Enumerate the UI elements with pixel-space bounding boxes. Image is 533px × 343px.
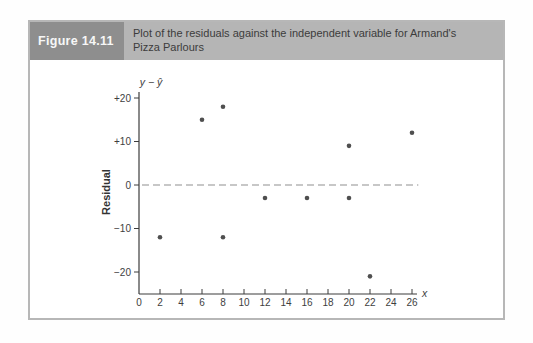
scatter-point (263, 196, 268, 201)
figure-box: Figure 14.11 Plot of the residuals again… (28, 20, 505, 320)
x-tick-label: 26 (406, 297, 418, 308)
x-tick-label: 18 (322, 297, 334, 308)
y-tick-label: +20 (114, 93, 131, 104)
page: Figure 14.11 Plot of the residuals again… (0, 0, 533, 343)
x-tick-label: 8 (220, 297, 226, 308)
figure-header: Figure 14.11 Plot of the residuals again… (30, 22, 503, 60)
x-tick-label: 6 (199, 297, 205, 308)
x-tick-label: 22 (364, 297, 376, 308)
scatter-point (347, 196, 352, 201)
y-tick-label: +10 (114, 136, 131, 147)
plot-area: +20+100−10−2002468101214161820222426y − … (30, 60, 503, 318)
residual-scatter-plot: +20+100−10−2002468101214161820222426y − … (30, 60, 503, 318)
y-tick-label: −10 (114, 223, 131, 234)
y-tick-label: −20 (114, 267, 131, 278)
figure-number-label: Figure 14.11 (30, 22, 124, 60)
figure-caption: Plot of the residuals against the indepe… (124, 22, 467, 60)
scatter-point (410, 131, 415, 136)
y-axis-name: Residual (100, 169, 112, 215)
scatter-point (221, 235, 226, 240)
x-axis-label: x (421, 287, 428, 299)
x-tick-label: 10 (238, 297, 250, 308)
scatter-point (368, 274, 373, 279)
x-tick-label: 0 (136, 297, 142, 308)
scatter-point (305, 196, 310, 201)
x-tick-label: 14 (280, 297, 292, 308)
x-tick-label: 12 (259, 297, 271, 308)
y-tick-label: 0 (125, 180, 131, 191)
x-tick-label: 20 (343, 297, 355, 308)
y-axis-title: y − ŷ (139, 76, 163, 88)
x-tick-label: 2 (157, 297, 163, 308)
scatter-point (158, 235, 163, 240)
scatter-point (200, 117, 205, 122)
scatter-point (347, 144, 352, 149)
x-tick-label: 16 (301, 297, 313, 308)
scatter-point (221, 104, 226, 109)
x-tick-label: 4 (178, 297, 184, 308)
x-tick-label: 24 (385, 297, 397, 308)
